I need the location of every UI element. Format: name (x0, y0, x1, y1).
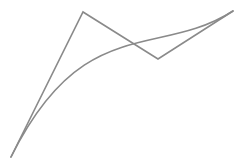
bezier-diagram (0, 0, 245, 165)
background (0, 0, 245, 165)
